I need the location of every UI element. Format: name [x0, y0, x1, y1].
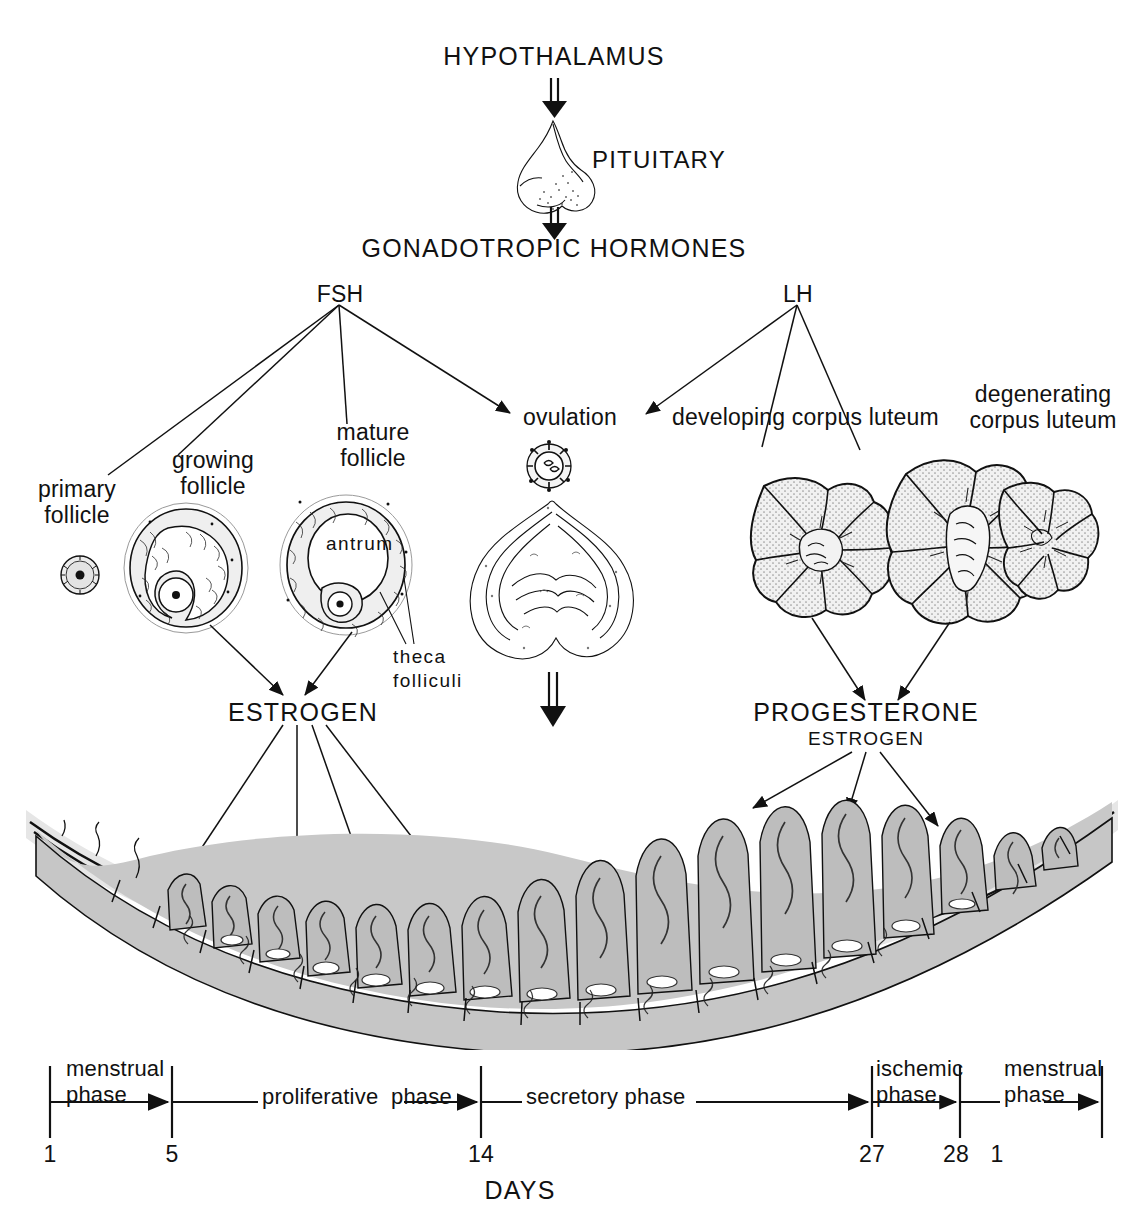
ovulation-label: ovulation — [523, 405, 617, 431]
theca-folliculi-label: theca folliculi — [393, 645, 463, 693]
basal-septa — [112, 836, 1070, 1025]
primary-follicle-label: primary follicle — [38, 477, 116, 529]
pituitary-gland-illustration — [517, 121, 594, 213]
developing-corpus-luteum-illustration — [751, 478, 893, 617]
corpus-luteum-to-progesterone-arrows — [812, 618, 950, 700]
hypothalamus-to-pituitary-arrow — [542, 78, 567, 118]
degenerating-corpus-luteum-illustration — [999, 483, 1098, 599]
endometrium-illustration — [26, 800, 1118, 1054]
progesterone-label: PROGESTERONE — [753, 698, 979, 726]
mature-corpus-luteum-illustration — [887, 460, 1048, 623]
mature-follicle-label: mature follicle — [337, 420, 410, 472]
gonadotropic-hormones-label: GONADOTROPIC HORMONES — [362, 234, 747, 262]
antrum-label: antrum — [326, 533, 394, 554]
ischemic-phase-label: ischemic phase — [876, 1056, 963, 1108]
days-axis-caption: DAYS — [484, 1176, 555, 1204]
mature-follicle-illustration — [280, 495, 414, 644]
diagram-artwork — [0, 0, 1139, 1219]
ovulation-down-arrow — [540, 672, 566, 727]
day-tick-14: 14 — [468, 1142, 494, 1168]
day-tick-5: 5 — [166, 1142, 179, 1168]
hypothalamus-label: HYPOTHALAMUS — [443, 42, 664, 70]
endometrial-glands — [62, 800, 1078, 1002]
lh-label: LH — [783, 282, 813, 308]
estrogen-to-endometrium-arrows — [185, 725, 460, 900]
estrogen-label: ESTROGEN — [228, 698, 378, 726]
degenerating-corpus-luteum-label: degenerating corpus luteum — [969, 382, 1116, 434]
ruptured-follicle-illustration — [470, 501, 633, 659]
menstrual-phase-1-label: menstrual phase — [66, 1056, 164, 1108]
day-tick-1-end: 1 — [991, 1142, 1004, 1168]
day-tick-27: 27 — [859, 1142, 885, 1168]
fsh-arrows — [108, 305, 510, 475]
proliferative-phase-label: proliferative phase — [262, 1085, 452, 1110]
progesterone-estrogen-label: ESTROGEN — [808, 728, 924, 749]
primary-follicle-illustration — [61, 556, 99, 594]
pituitary-label: PITUITARY — [592, 147, 726, 174]
figure-canvas: HYPOTHALAMUS PITUITARY GONADOTROPIC HORM… — [0, 0, 1139, 1219]
fsh-label: FSH — [317, 282, 364, 308]
day-tick-1: 1 — [44, 1142, 57, 1168]
secretory-phase-label: secretory phase — [526, 1085, 686, 1110]
day-tick-28: 28 — [943, 1142, 969, 1168]
developing-corpus-luteum-label: developing corpus luteum — [672, 405, 939, 431]
progesterone-to-endometrium-arrows — [753, 752, 938, 826]
released-ovum-illustration — [527, 440, 571, 492]
spiral-arteries — [184, 916, 887, 1018]
growing-follicle-illustration — [124, 503, 248, 633]
follicles-to-estrogen-arrows — [210, 625, 352, 695]
menstrual-phase-2-label: menstrual phase — [1004, 1056, 1102, 1108]
growing-follicle-label: growing follicle — [172, 448, 254, 500]
